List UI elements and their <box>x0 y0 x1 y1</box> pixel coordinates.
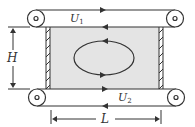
top-velocity-label: U1 <box>70 12 84 26</box>
height-label: H <box>6 51 18 65</box>
bottom-velocity-label: U2 <box>118 91 132 105</box>
top-belt <box>28 7 184 30</box>
right-wall <box>159 27 163 89</box>
cavity <box>50 27 159 89</box>
left-wall <box>46 27 50 89</box>
bottom-belt <box>29 86 185 109</box>
diagram-canvas: U1 U2 H L <box>0 0 195 127</box>
length-label: L <box>100 112 109 126</box>
